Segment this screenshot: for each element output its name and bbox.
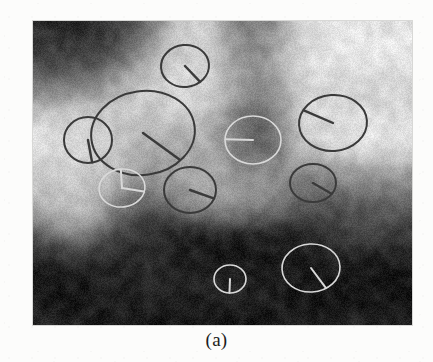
region-orientation-line (311, 267, 326, 288)
grayscale-image-panel (33, 21, 412, 325)
region-bottom-right (281, 243, 341, 294)
region-orientation-line (229, 279, 230, 293)
region-orientation-line (185, 65, 200, 83)
region-mid-centre (164, 167, 216, 213)
figure-caption: (a) (0, 329, 433, 351)
region-right-upper (297, 93, 369, 154)
region-orientation-line (304, 108, 333, 124)
region-orientation-line (143, 128, 180, 164)
region-bottom-small (214, 265, 246, 293)
region-orientation-line (226, 139, 253, 140)
figure-root: (a) (0, 0, 433, 362)
region-orientation-line (313, 183, 331, 194)
region-centre-dark (225, 116, 281, 164)
region-small-left (64, 117, 112, 163)
region-orientation-line (190, 190, 214, 198)
region-orientation-line (122, 186, 144, 194)
region-annotation-overlay (33, 21, 412, 325)
region-right-small (290, 164, 336, 202)
region-clock-hands-left (97, 167, 147, 210)
region-top-centre (159, 43, 210, 89)
